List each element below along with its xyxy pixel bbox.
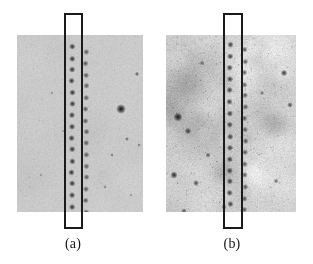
roi-rectangle-a <box>64 13 83 229</box>
figure-root: (a) (b) <box>0 0 313 264</box>
subfigure-caption-b: (b) <box>202 236 262 252</box>
roi-rectangle-b <box>223 13 243 229</box>
subfigure-caption-a: (a) <box>43 236 103 252</box>
